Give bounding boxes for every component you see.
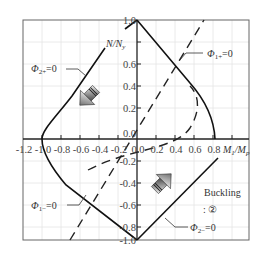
y-axis-label: N/Ny: [105, 38, 126, 51]
interaction-diagram: 1.0 0.6 0.4 0.2 0.0 -0.2 -0.4 -0.6 -0.8 …: [0, 0, 265, 261]
label-phi1-minus: Φ1−=0: [31, 200, 57, 213]
x-tick-neg0.6: -0.6: [73, 144, 90, 155]
x-tick-neg1.0: -1.0: [35, 144, 52, 155]
y-tick-0.2: 0.2: [123, 103, 136, 114]
y-tick-neg0.4: -0.4: [119, 178, 136, 189]
y-tick-neg0.2: -0.2: [119, 156, 136, 167]
x-tick-neg0.2: -0.2: [111, 144, 128, 155]
x-tick-neg0.8: -0.8: [54, 144, 71, 155]
label-phi2-plus: Φ2+=0: [31, 63, 57, 76]
buckling-label: Buckling: [204, 187, 241, 198]
curve-phi1-plus: [137, 20, 215, 139]
y-tick-0.0: 0.0: [123, 128, 136, 139]
y-tick-neg0.8: -0.8: [119, 222, 136, 233]
y-tick-neg0.6: -0.6: [119, 200, 136, 211]
x-tick-0.0: 0.0: [131, 144, 144, 155]
label-phi1-plus: Φ1+=0: [207, 48, 233, 61]
y-tick-1.0: 1.0: [123, 15, 136, 26]
x-tick-0.6: 0.6: [188, 144, 201, 155]
x-tick-labels: -1.2 -1.0 -0.8 -0.6 -0.4 -0.2 0.0 0.2 0.…: [16, 144, 221, 155]
x-axis-label: M1/Mp: [222, 144, 250, 157]
x-tick-neg0.4: -0.4: [92, 144, 109, 155]
buckling-case-label: : ②: [203, 204, 217, 215]
x-tick-0.8: 0.8: [207, 144, 220, 155]
x-tick-0.4: 0.4: [169, 144, 183, 155]
x-tick-0.2: 0.2: [150, 144, 163, 155]
y-tick-0.6: 0.6: [123, 59, 136, 70]
y-tick-neg1.0: -1.0: [119, 235, 136, 246]
dashed-curve: [88, 86, 198, 170]
x-tick-neg1.2: -1.2: [16, 144, 33, 155]
y-tick-0.4: 0.4: [123, 81, 137, 92]
arrow-up-left-icon: [148, 167, 178, 197]
